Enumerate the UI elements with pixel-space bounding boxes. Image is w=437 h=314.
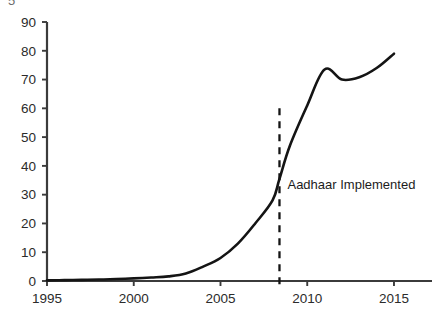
x-axis-tick-label: 1995 [32, 291, 62, 306]
y-axis-tick-label: 80 [21, 44, 36, 59]
y-axis-tick-label: 0 [28, 274, 36, 289]
x-axis-tick-label: 2015 [379, 291, 409, 306]
x-axis-tick-labels: 19952000200520102015 [32, 291, 409, 306]
x-axis-tick-label: 2000 [119, 291, 149, 306]
x-axis-group: 19952000200520102015 [32, 281, 432, 306]
y-axis-tick-label: 70 [21, 72, 36, 87]
data-series-line [47, 54, 394, 281]
event-annotation-label: Aadhaar Implemented [287, 177, 415, 192]
y-axis-tick-labels: 0102030405060708090 [21, 15, 36, 289]
y-axis-tick-label: 20 [21, 216, 36, 231]
y-axis-group: 0102030405060708090 [21, 15, 47, 289]
chart-container: 5 0102030405060708090 199520002005201020… [0, 0, 437, 314]
y-axis-tick-label: 40 [21, 159, 36, 174]
y-axis-tick-label: 60 [21, 101, 36, 116]
x-axis-tick-label: 2010 [292, 291, 322, 306]
y-axis-tick-label: 30 [21, 187, 36, 202]
y-axis-tick-label: 90 [21, 15, 36, 30]
x-axis-tick-label: 2005 [205, 291, 235, 306]
y-axis-tick-label: 50 [21, 130, 36, 145]
y-axis-tick-label: 10 [21, 245, 36, 260]
line-chart-svg: 0102030405060708090 19952000200520102015… [0, 0, 437, 314]
